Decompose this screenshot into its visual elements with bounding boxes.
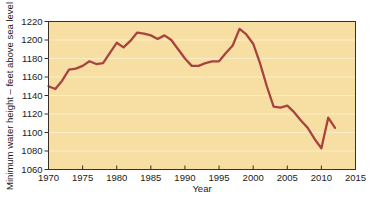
y-axis-tick-label: 1200 xyxy=(21,34,42,45)
x-axis-tick-label: 2015 xyxy=(345,172,366,183)
x-axis-tick-label: 1990 xyxy=(174,172,195,183)
y-axis-title: Minimum water height – feet above sea le… xyxy=(4,2,15,190)
x-axis-tick-label: 1975 xyxy=(72,172,93,183)
y-axis-tick-label: 1100 xyxy=(22,127,42,138)
x-axis-tick-label: 1970 xyxy=(38,172,59,183)
y-axis-tick-label: 1080 xyxy=(21,145,42,156)
x-axis-tick-label: 1980 xyxy=(106,172,127,183)
y-axis-tick-label: 1160 xyxy=(22,71,42,82)
y-axis-tick-label: 1220 xyxy=(21,16,42,27)
chart-figure: 106010801100112011401160118012001220 197… xyxy=(0,0,375,198)
x-axis-tick-label: 1995 xyxy=(208,172,229,183)
y-axis-tick-label: 1120 xyxy=(22,108,42,119)
x-axis-tick-label: 2010 xyxy=(311,172,332,183)
y-axis-tick-labels: 106010801100112011401160118012001220 xyxy=(21,16,42,175)
x-axis-tick-label: 1985 xyxy=(140,172,161,183)
line-chart: 106010801100112011401160118012001220 197… xyxy=(0,0,375,198)
x-axis-tick-label: 2005 xyxy=(277,172,298,183)
x-axis-title: Year xyxy=(192,183,211,194)
y-axis-tick-label: 1180 xyxy=(22,53,42,64)
y-axis-tick-label: 1140 xyxy=(22,90,42,101)
x-axis-tick-label: 2000 xyxy=(243,172,264,183)
